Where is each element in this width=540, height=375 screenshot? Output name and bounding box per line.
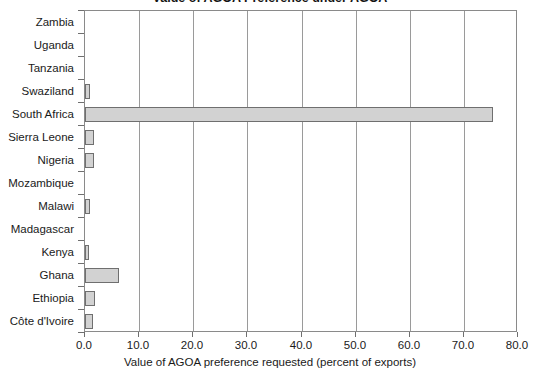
x-axis-tick-label: 60.0 [398,338,420,352]
x-axis-tick [409,332,410,337]
bar-row[interactable] [85,57,518,80]
bar-row[interactable] [85,80,518,103]
bar-row[interactable] [85,218,518,241]
x-axis-tick-labels: 0.010.020.030.040.050.060.070.080.0 [84,338,517,352]
y-axis-label: Nigeria [38,153,74,167]
bar-ghana[interactable] [85,268,119,283]
bars-layer [85,11,516,331]
y-axis-label: Sierra Leone [8,130,74,144]
bar-row[interactable] [85,172,518,195]
chart-figure: Value of AGOA Preference under AGOA Zamb… [0,0,540,375]
y-axis-category-labels: ZambiaUgandaTanzaniaSwazilandSouth Afric… [0,10,80,332]
y-axis-label: South Africa [12,107,74,121]
bar-c-te-d-ivoire[interactable] [85,314,93,329]
bar-row[interactable] [85,103,518,126]
bar-row[interactable] [85,287,518,310]
bar-row[interactable] [85,34,518,57]
x-axis-tick-label: 20.0 [181,338,203,352]
x-axis-tick-label: 80.0 [506,338,528,352]
bar-malawi[interactable] [85,199,90,214]
x-axis-tick [246,332,247,337]
bar-row[interactable] [85,264,518,287]
x-axis-tick [138,332,139,337]
bar-row[interactable] [85,11,518,34]
x-axis-tick [84,332,85,337]
bar-south-africa[interactable] [85,107,493,122]
y-axis-label: Côte d'Ivoire [10,314,74,328]
x-axis-tick [463,332,464,337]
bar-kenya[interactable] [85,245,89,260]
x-axis-tick-label: 40.0 [290,338,312,352]
bar-row[interactable] [85,126,518,149]
y-axis-label: Ghana [39,268,74,282]
x-axis-title: Value of AGOA preference requested (perc… [0,355,540,369]
x-axis-tick-label: 50.0 [344,338,366,352]
bar-ethiopia[interactable] [85,291,95,306]
bar-nigeria[interactable] [85,153,94,168]
y-axis-label: Uganda [34,38,74,52]
bar-row[interactable] [85,195,518,218]
y-axis-label: Tanzania [28,61,74,75]
y-axis-label: Swaziland [22,84,74,98]
y-axis-label: Malawi [38,199,74,213]
plot-area [84,10,517,332]
y-axis-label: Mozambique [8,176,74,190]
x-axis-tick [301,332,302,337]
x-axis-tick-label: 0.0 [76,338,92,352]
bar-sierra-leone[interactable] [85,130,94,145]
y-axis-label: Ethiopia [32,291,74,305]
x-axis-tick [355,332,356,337]
y-axis-label: Madagascar [11,222,74,236]
x-axis-tick [192,332,193,337]
chart-title: Value of AGOA Preference under AGOA [0,0,540,5]
x-axis-tick [517,332,518,337]
bar-row[interactable] [85,241,518,264]
bar-swaziland[interactable] [85,84,90,99]
x-axis-tick-label: 10.0 [127,338,149,352]
y-axis-label: Kenya [41,245,74,259]
bar-row[interactable] [85,149,518,172]
x-axis-tick-label: 30.0 [235,338,257,352]
y-axis-label: Zambia [36,15,74,29]
bar-row[interactable] [85,310,518,333]
x-axis-tick-label: 70.0 [452,338,474,352]
